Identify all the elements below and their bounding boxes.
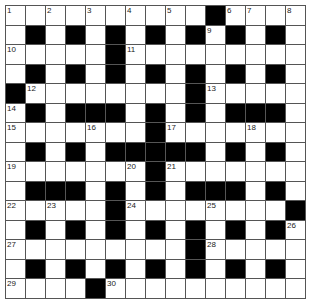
- grid-cell[interactable]: [26, 240, 45, 259]
- grid-cell[interactable]: [266, 6, 285, 25]
- grid-cell[interactable]: [226, 162, 245, 181]
- grid-cell[interactable]: [246, 260, 265, 279]
- grid-cell[interactable]: [66, 6, 85, 25]
- grid-cell[interactable]: [146, 279, 165, 298]
- grid-cell[interactable]: [66, 240, 85, 259]
- grid-cell[interactable]: [186, 6, 205, 25]
- grid-cell[interactable]: [46, 162, 65, 181]
- grid-cell[interactable]: [166, 45, 185, 64]
- grid-cell[interactable]: [146, 45, 165, 64]
- grid-cell[interactable]: [266, 84, 285, 103]
- grid-cell[interactable]: [286, 143, 305, 162]
- grid-cell[interactable]: [6, 182, 25, 201]
- grid-cell[interactable]: 14: [6, 104, 25, 123]
- grid-cell[interactable]: [266, 162, 285, 181]
- grid-cell[interactable]: [6, 65, 25, 84]
- grid-cell[interactable]: [46, 104, 65, 123]
- grid-cell[interactable]: [46, 45, 65, 64]
- grid-cell[interactable]: [246, 240, 265, 259]
- grid-cell[interactable]: 28: [206, 240, 225, 259]
- grid-cell[interactable]: [206, 143, 225, 162]
- grid-cell[interactable]: [126, 65, 145, 84]
- grid-cell[interactable]: [206, 221, 225, 240]
- grid-cell[interactable]: [226, 123, 245, 142]
- grid-cell[interactable]: [286, 123, 305, 142]
- grid-cell[interactable]: [106, 123, 125, 142]
- grid-cell[interactable]: 10: [6, 45, 25, 64]
- grid-cell[interactable]: [46, 84, 65, 103]
- grid-cell[interactable]: [266, 240, 285, 259]
- grid-cell[interactable]: [206, 123, 225, 142]
- grid-cell[interactable]: 9: [206, 26, 225, 45]
- grid-cell[interactable]: [286, 182, 305, 201]
- grid-cell[interactable]: [246, 221, 265, 240]
- grid-cell[interactable]: 25: [206, 201, 225, 220]
- grid-cell[interactable]: [266, 279, 285, 298]
- grid-cell[interactable]: 4: [126, 6, 145, 25]
- grid-cell[interactable]: 23: [46, 201, 65, 220]
- grid-cell[interactable]: [246, 143, 265, 162]
- grid-cell[interactable]: [206, 279, 225, 298]
- grid-cell[interactable]: 8: [286, 6, 305, 25]
- grid-cell[interactable]: [126, 84, 145, 103]
- grid-cell[interactable]: [66, 123, 85, 142]
- grid-cell[interactable]: [26, 45, 45, 64]
- grid-cell[interactable]: 27: [6, 240, 25, 259]
- grid-cell[interactable]: [126, 123, 145, 142]
- grid-cell[interactable]: [166, 240, 185, 259]
- grid-cell[interactable]: [126, 182, 145, 201]
- grid-cell[interactable]: [126, 26, 145, 45]
- grid-cell[interactable]: [86, 143, 105, 162]
- grid-cell[interactable]: 15: [6, 123, 25, 142]
- grid-cell[interactable]: [126, 240, 145, 259]
- grid-cell[interactable]: [86, 221, 105, 240]
- grid-cell[interactable]: [66, 279, 85, 298]
- grid-cell[interactable]: [206, 104, 225, 123]
- grid-cell[interactable]: [206, 260, 225, 279]
- grid-cell[interactable]: 22: [6, 201, 25, 220]
- grid-cell[interactable]: 6: [226, 6, 245, 25]
- grid-cell[interactable]: [86, 240, 105, 259]
- grid-cell[interactable]: [106, 84, 125, 103]
- grid-cell[interactable]: [286, 279, 305, 298]
- grid-cell[interactable]: 11: [126, 45, 145, 64]
- grid-cell[interactable]: [146, 6, 165, 25]
- grid-cell[interactable]: [206, 162, 225, 181]
- grid-cell[interactable]: [166, 104, 185, 123]
- grid-cell[interactable]: [46, 123, 65, 142]
- grid-cell[interactable]: [286, 104, 305, 123]
- grid-cell[interactable]: [266, 201, 285, 220]
- grid-cell[interactable]: [226, 240, 245, 259]
- grid-cell[interactable]: [206, 65, 225, 84]
- grid-cell[interactable]: [146, 240, 165, 259]
- grid-cell[interactable]: [106, 240, 125, 259]
- grid-cell[interactable]: [86, 201, 105, 220]
- grid-cell[interactable]: 20: [126, 162, 145, 181]
- grid-cell[interactable]: [166, 84, 185, 103]
- grid-cell[interactable]: [286, 162, 305, 181]
- grid-cell[interactable]: [186, 162, 205, 181]
- grid-cell[interactable]: [226, 201, 245, 220]
- grid-cell[interactable]: [246, 279, 265, 298]
- grid-cell[interactable]: 2: [46, 6, 65, 25]
- grid-cell[interactable]: [66, 201, 85, 220]
- grid-cell[interactable]: [46, 65, 65, 84]
- grid-cell[interactable]: [46, 260, 65, 279]
- grid-cell[interactable]: [106, 6, 125, 25]
- grid-cell[interactable]: [186, 123, 205, 142]
- grid-cell[interactable]: [246, 201, 265, 220]
- grid-cell[interactable]: [226, 45, 245, 64]
- grid-cell[interactable]: 19: [6, 162, 25, 181]
- grid-cell[interactable]: [166, 26, 185, 45]
- grid-cell[interactable]: [6, 26, 25, 45]
- grid-cell[interactable]: [126, 260, 145, 279]
- grid-cell[interactable]: [186, 201, 205, 220]
- grid-cell[interactable]: [46, 240, 65, 259]
- grid-cell[interactable]: [166, 201, 185, 220]
- grid-cell[interactable]: [166, 221, 185, 240]
- grid-cell[interactable]: 21: [166, 162, 185, 181]
- grid-cell[interactable]: [186, 279, 205, 298]
- grid-cell[interactable]: [166, 65, 185, 84]
- grid-cell[interactable]: [66, 45, 85, 64]
- grid-cell[interactable]: [86, 45, 105, 64]
